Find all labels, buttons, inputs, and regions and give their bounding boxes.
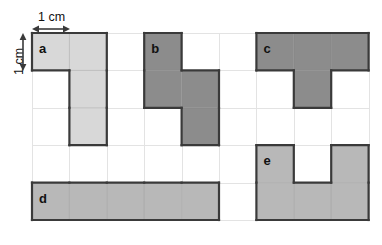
shape-a-label: a: [39, 42, 46, 55]
shape-cell: [331, 145, 368, 182]
shape-cell: [294, 183, 331, 220]
shape-e-label: e: [263, 154, 270, 167]
horizontal-scale-label: 1 cm: [38, 11, 65, 24]
shape-d-label: d: [39, 192, 47, 205]
shape-cell: [256, 145, 293, 182]
shape-cell: [256, 183, 293, 220]
vertical-scale-arrow-icon: [18, 33, 28, 75]
horizontal-scale-arrow-icon: [32, 24, 74, 34]
shape-c-label: c: [263, 42, 270, 55]
shape-e-geometry: [0, 0, 382, 245]
shape-e[interactable]: e: [0, 0, 382, 245]
figure-canvas: abcde 1 cm 1 cm: [0, 0, 382, 245]
shape-b-label: b: [151, 42, 159, 55]
shape-cell: [331, 183, 368, 220]
